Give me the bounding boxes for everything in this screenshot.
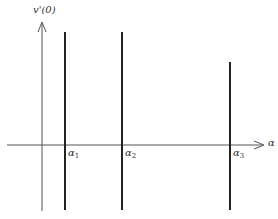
- marker-label-2: α2: [125, 147, 136, 160]
- diagram-canvas: [0, 0, 278, 219]
- x-axis-label: α: [268, 137, 275, 148]
- marker-label-1: α1: [68, 147, 79, 160]
- marker-label-3: α3: [233, 147, 244, 160]
- y-axis-label: v'(0): [33, 4, 56, 15]
